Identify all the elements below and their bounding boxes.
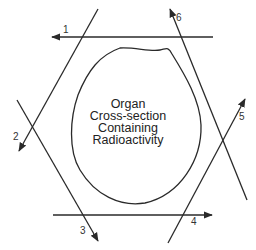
- projection-line-5: [168, 99, 245, 243]
- organ-label: Organ Cross-section Containing Radioacti…: [80, 98, 176, 146]
- projection-label-4: 4: [191, 217, 197, 227]
- projection-label-2: 2: [13, 132, 19, 142]
- projection-label-6: 6: [176, 13, 182, 23]
- projection-label-3: 3: [80, 226, 86, 236]
- projection-label-1: 1: [63, 25, 69, 35]
- projection-label-5: 5: [239, 112, 245, 122]
